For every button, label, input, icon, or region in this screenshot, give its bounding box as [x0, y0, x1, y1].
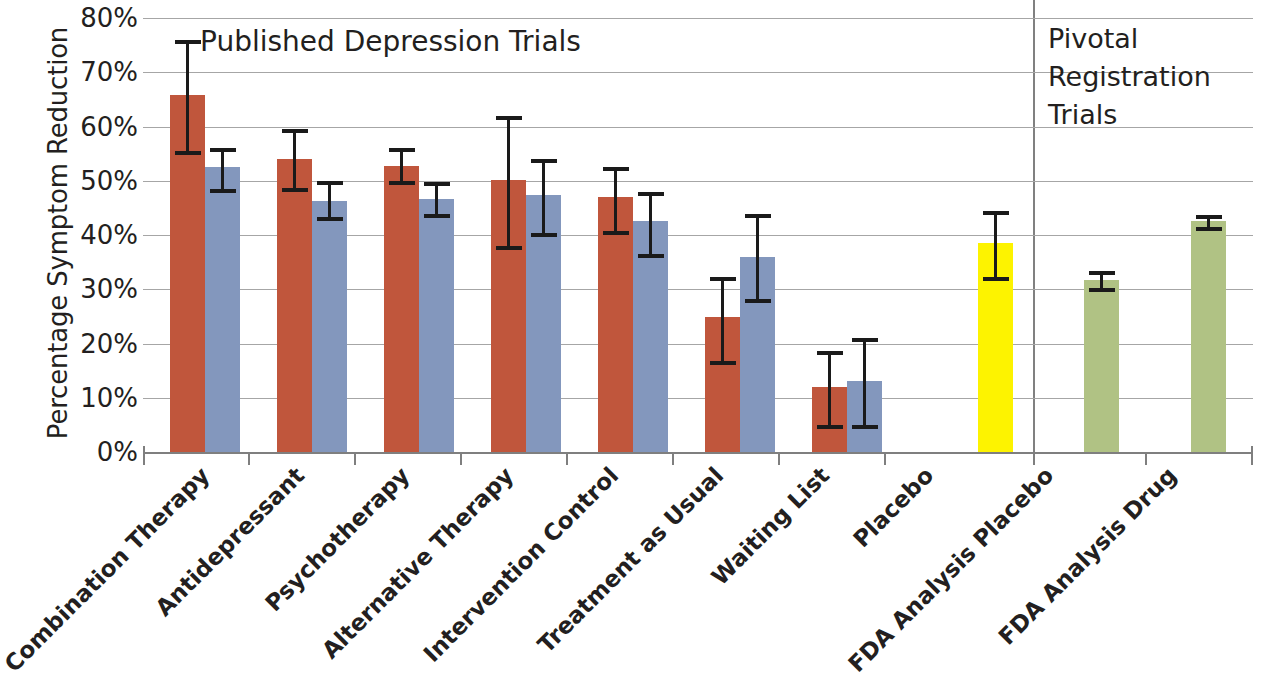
bar[interactable]: [384, 166, 419, 452]
error-bar-cap-upper: [1196, 215, 1222, 219]
x-axis-label: Intervention Control: [418, 462, 623, 667]
error-bar-cap-lower: [210, 189, 236, 193]
error-bar-stem: [400, 148, 403, 181]
pivotal-heading-line-2: Registration: [1048, 58, 1211, 96]
error-bar-cap-upper: [603, 167, 629, 171]
error-bar-stem: [828, 351, 831, 425]
error-bar-stem: [721, 277, 724, 361]
x-axis-label: Treatment as Usual: [533, 462, 729, 658]
pivotal-heading-line-1: Pivotal: [1048, 20, 1211, 58]
error-bar-cap-lower: [175, 151, 201, 155]
error-bar-cap-lower: [496, 246, 522, 250]
error-bar-stem: [186, 40, 189, 151]
y-tick-label: 0%: [46, 437, 138, 467]
error-bar-stem: [507, 116, 510, 246]
x-axis-tick: [460, 452, 462, 465]
error-bar-stem: [542, 159, 545, 233]
y-tick-label: 40%: [46, 220, 138, 250]
error-bar-cap-upper: [710, 277, 736, 281]
error-bar-cap-upper: [745, 214, 771, 218]
x-axis-tick: [1033, 452, 1035, 465]
gridline-80%: [143, 18, 1253, 19]
x-axis-tick: [354, 452, 356, 465]
error-bar-stem: [994, 211, 997, 278]
error-bar-stem: [328, 181, 331, 217]
error-bar-cap-lower: [389, 181, 415, 185]
error-bar-cap-upper: [175, 40, 201, 44]
x-axis-label: FDA Analysis Placebo: [843, 462, 1058, 677]
error-bar-cap-upper: [389, 148, 415, 152]
error-bar-cap-lower: [424, 214, 450, 218]
bar[interactable]: [277, 159, 312, 452]
error-bar-cap-upper: [496, 116, 522, 120]
y-tick-label: 30%: [46, 274, 138, 304]
y-tick-label: 60%: [46, 112, 138, 142]
error-bar-cap-lower: [638, 254, 664, 258]
pivotal-heading-line-3: Trials: [1048, 96, 1211, 134]
x-axis-tick: [672, 452, 674, 465]
bar[interactable]: [205, 167, 240, 452]
bar[interactable]: [598, 197, 633, 452]
error-bar-cap-upper: [282, 129, 308, 133]
bar[interactable]: [312, 201, 347, 452]
error-bar-cap-upper: [638, 192, 664, 196]
error-bar-cap-lower: [1196, 227, 1222, 231]
error-bar-cap-lower: [1089, 288, 1115, 292]
error-bar-cap-upper: [852, 338, 878, 342]
error-bar-cap-lower: [317, 217, 343, 221]
error-bar-cap-upper: [1089, 271, 1115, 275]
error-bar-cap-lower: [710, 361, 736, 365]
error-bar-stem: [756, 214, 759, 299]
error-bar-cap-lower: [852, 425, 878, 429]
panel-divider: [1033, 0, 1035, 452]
error-bar-stem: [293, 129, 296, 188]
error-bar-stem: [221, 148, 224, 189]
y-tick-label: 50%: [46, 166, 138, 196]
y-tick-label: 70%: [46, 57, 138, 87]
y-axis-tick-labels: 0%10%20%30%40%50%60%70%80%: [44, 0, 138, 470]
gridline-0%: [143, 452, 1253, 454]
error-bar-cap-lower: [817, 425, 843, 429]
x-axis-label: Alternative Therapy: [317, 462, 519, 664]
y-tick-label: 10%: [46, 383, 138, 413]
error-bar-cap-lower: [983, 277, 1009, 281]
x-axis-tick: [1251, 452, 1253, 465]
x-axis-tick: [1145, 452, 1147, 465]
published-trials-heading: Published Depression Trials: [200, 25, 581, 58]
x-axis-tick: [778, 452, 780, 465]
bar[interactable]: [1084, 280, 1119, 453]
error-bar-cap-upper: [210, 148, 236, 152]
bar[interactable]: [1191, 221, 1226, 452]
error-bar-cap-lower: [531, 233, 557, 237]
error-bar-stem: [435, 182, 438, 215]
x-axis-tick: [566, 452, 568, 465]
y-tick-label: 80%: [46, 3, 138, 33]
chart-container: Percentage Symptom Reduction 0%10%20%30%…: [0, 0, 1263, 684]
error-bar-stem: [614, 167, 617, 230]
error-bar-cap-upper: [983, 211, 1009, 215]
pivotal-trials-heading: Pivotal Registration Trials: [1048, 20, 1211, 134]
bar[interactable]: [419, 199, 454, 452]
error-bar-cap-lower: [603, 231, 629, 235]
error-bar-cap-lower: [745, 299, 771, 303]
error-bar-cap-upper: [531, 159, 557, 163]
error-bar-cap-lower: [282, 188, 308, 192]
error-bar-stem: [649, 192, 652, 254]
x-axis-tick: [248, 452, 250, 465]
y-tick-label: 20%: [46, 329, 138, 359]
error-bar-cap-upper: [317, 181, 343, 185]
x-axis-tick: [884, 452, 886, 465]
x-axis-tick: [143, 452, 145, 465]
error-bar-stem: [863, 338, 866, 425]
x-axis-label: Placebo: [848, 462, 938, 552]
error-bar-cap-upper: [424, 182, 450, 186]
error-bar-cap-upper: [817, 351, 843, 355]
